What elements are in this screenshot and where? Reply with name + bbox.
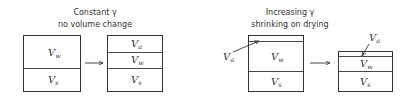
callout-va: Va [369,32,380,45]
label-va: Va [131,38,142,51]
label-vw: Vw [271,51,284,64]
label-vs: Vs [360,76,371,89]
right-title-line1: Increasing γ [266,8,315,17]
label-vw: Vw [131,54,144,67]
label-vs: Vs [131,74,142,87]
soil-phase-diagram: Constant γ no volume change Vw Vs Va Vw … [0,0,414,99]
after-box-constant: Va Vw Vs [108,36,163,92]
before-box-constant: Vw Vs [24,36,81,92]
left-panel: Constant γ no volume change Vw Vs Va Vw … [24,8,163,92]
right-title-line2: shrinking on drying [251,20,328,29]
after-box-shrinking: Va Vw Vs [339,32,393,92]
right-panel: Increasing γ shrinking on drying Va Vw V… [223,8,393,92]
label-vw: Vw [48,47,61,60]
left-title-line2: no volume change [58,20,132,29]
label-vw: Vw [360,58,373,71]
before-box-shrinking: Va Vw Vs [223,36,304,92]
label-vs: Vs [48,74,59,87]
callout-va: Va [223,51,234,64]
label-vs: Vs [271,76,282,89]
callout-arrow-icon [362,44,369,56]
left-title-line1: Constant γ [73,8,117,17]
callout-arrow-icon [233,41,259,52]
